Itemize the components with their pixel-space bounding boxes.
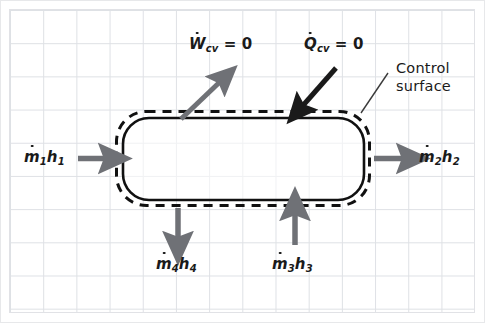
stream-4-mdot-symbol: m (156, 256, 172, 273)
stream-1-mdot-symbol: m (24, 149, 40, 166)
heat-symbol: Q (304, 36, 317, 53)
stream-2-label: m2h2 (419, 149, 460, 167)
control-surface-label-line2: surface (396, 78, 451, 96)
work-symbol: W (189, 36, 206, 53)
control-surface-label-line1: Control (396, 60, 451, 78)
stream-3-label: m3h3 (272, 256, 313, 274)
stream-2-mdot-symbol: m (419, 149, 435, 166)
heat-arrow (299, 68, 336, 110)
control-volume-device-outline (123, 118, 364, 200)
heat-label: Qcv = 0 (304, 36, 364, 54)
diagram-canvas: Wcv = 0 Qcv = 0 Control surface m1h1 m2h… (0, 0, 485, 323)
stream-1-label: m1h1 (24, 149, 65, 167)
stream-3-mdot-symbol: m (272, 256, 288, 273)
stream-4-label: m4h4 (156, 256, 197, 274)
control-surface-label: Control surface (396, 60, 451, 95)
control-surface-leader-line (361, 73, 388, 113)
work-label: Wcv = 0 (189, 36, 252, 54)
